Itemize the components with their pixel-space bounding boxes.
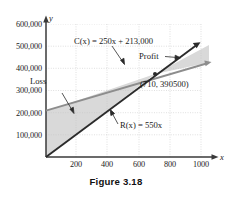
chart-plot xyxy=(0,0,232,200)
figure-container: 100,000 200,000 300,000 400,000 500,000 … xyxy=(0,0,232,200)
y-tick-label-300000: 300,000 xyxy=(2,86,42,95)
loss-region-label: Loss xyxy=(30,76,46,86)
y-tick-label-600000: 600,000 xyxy=(2,20,42,29)
x-tick-label-400: 400 xyxy=(93,160,121,169)
x-tick-label-600: 600 xyxy=(125,160,153,169)
profit-label-leader xyxy=(165,55,181,59)
cost-label-leader xyxy=(112,46,125,65)
y-tick-label-500000: 500,000 xyxy=(2,42,42,51)
figure-caption: Figure 3.18 xyxy=(0,176,232,187)
revenue-label-leader xyxy=(110,110,118,125)
y-tick-label-200000: 200,000 xyxy=(2,109,42,118)
break-even-point-label: (710, 390500) xyxy=(140,79,189,89)
x-tick-label-200: 200 xyxy=(62,160,90,169)
y-axis-name: y xyxy=(49,13,53,23)
y-tick-label-100000: 100,000 xyxy=(2,131,42,140)
cost-function-label: C(x) = 250x + 213,000 xyxy=(74,36,153,46)
x-tick-label-800: 800 xyxy=(156,160,184,169)
x-axis xyxy=(46,154,219,160)
revenue-function-label: R(x) = 550x xyxy=(120,120,162,130)
break-even-point-marker xyxy=(153,72,157,76)
x-axis-name: x xyxy=(220,152,224,162)
x-tick-label-1000: 1000 xyxy=(187,160,215,169)
y-tick-label-400000: 400,000 xyxy=(2,64,42,73)
profit-region-label: Profit xyxy=(139,51,159,61)
